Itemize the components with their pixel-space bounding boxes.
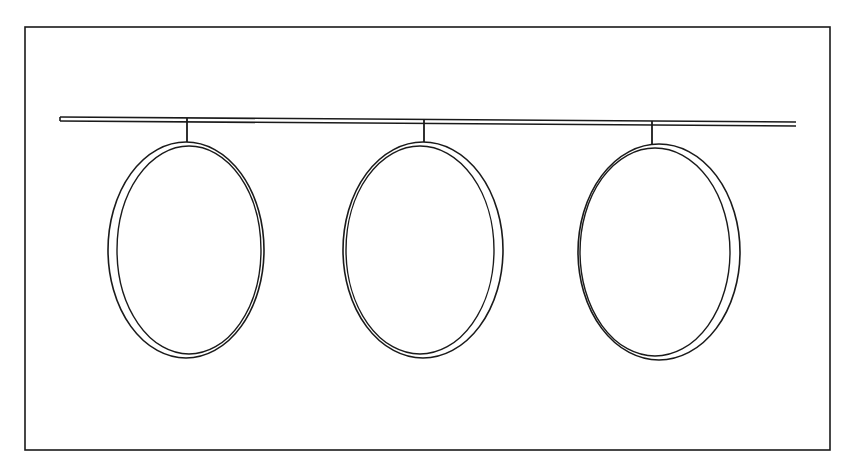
border-frame <box>25 27 830 450</box>
ring-outer-edge <box>578 144 740 360</box>
diagram-canvas <box>0 0 854 465</box>
ring-outer-edge <box>343 142 503 358</box>
ring-outer-edge <box>108 142 264 358</box>
ring-3 <box>578 121 740 360</box>
ring-inner-edge <box>580 148 730 356</box>
ring-2 <box>343 119 503 358</box>
ring-inner-edge <box>117 146 261 354</box>
rings-on-rod-drawing <box>0 0 854 465</box>
rings-group <box>108 118 740 360</box>
horizontal-rod <box>60 117 796 126</box>
ring-1 <box>108 118 264 358</box>
ring-inner-edge <box>346 146 494 354</box>
